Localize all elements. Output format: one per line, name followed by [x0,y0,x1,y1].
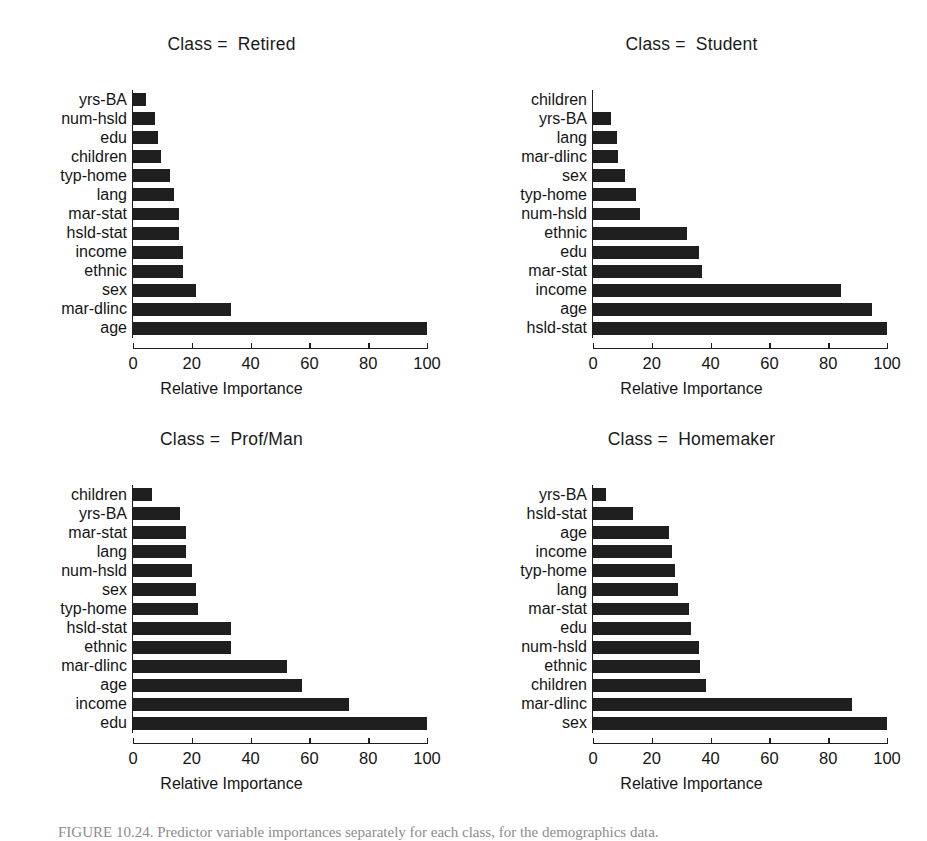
x-axis-tick [887,738,888,744]
bar-row: num-hsld [593,641,887,654]
panel-student: Class = Student childrenyrs-BAlangmar-dl… [460,20,923,420]
bar-rows: yrs-BAhsld-statageincometyp-homelangmar-… [593,485,887,733]
bar [133,545,186,558]
bar-row: num-hsld [133,564,427,577]
bar [593,303,872,316]
category-label: hsld-stat [527,319,587,337]
bar-row: edu [133,717,427,730]
x-axis-tick-label: 20 [643,354,661,373]
x-axis-tick-label: 100 [873,749,901,768]
category-label: sex [562,167,587,185]
category-label: children [531,676,587,694]
x-axis-tick-label: 0 [588,749,597,768]
x-axis-tick-label: 80 [359,354,377,373]
category-label: mar-dlinc [521,148,587,166]
bar-row: children [593,93,887,106]
x-axis-tick-label: 100 [413,749,441,768]
x-axis: 020406080100 [593,743,887,744]
x-axis-tick [828,738,829,744]
category-label: mar-stat [528,600,587,618]
x-axis-tick [427,738,428,744]
x-axis-tick [769,343,770,349]
category-label: edu [560,243,587,261]
plot-area: childrenyrs-BAlangmar-dlincsextyp-homenu… [593,90,887,338]
bar-row: ethnic [133,265,427,278]
category-label: income [535,281,587,299]
bar-row: ethnic [593,227,887,240]
bar-row: children [133,150,427,163]
x-axis-tick [251,343,252,349]
category-label: yrs-BA [539,486,587,504]
category-label: hsld-stat [67,224,127,242]
bar-row: children [593,679,887,692]
panel-title: Class = Retired [0,34,463,55]
bar-row: mar-stat [133,208,427,221]
bar-row: sex [133,583,427,596]
x-axis-tick [192,738,193,744]
category-label: edu [100,714,127,732]
bar-row: hsld-stat [593,507,887,520]
x-axis-tick [133,738,134,744]
bar-row: lang [593,131,887,144]
bar [133,717,427,730]
category-label: lang [557,129,587,147]
bar-row: income [593,545,887,558]
category-label: num-hsld [61,110,127,128]
bar [133,603,198,616]
x-axis-label: Relative Importance [460,775,923,793]
category-label: age [100,319,127,337]
bar-row: mar-dlinc [133,303,427,316]
bar [133,698,349,711]
x-axis-tick [652,343,653,349]
x-axis-tick-label: 20 [643,749,661,768]
category-label: edu [100,129,127,147]
bar [593,188,636,201]
bar [133,265,183,278]
x-axis-label: Relative Importance [460,380,923,398]
bar [133,660,287,673]
category-label: lang [97,186,127,204]
x-axis-tick [368,343,369,349]
category-label: children [71,148,127,166]
bar [593,322,887,335]
bar-row: yrs-BA [593,112,887,125]
bar-row: yrs-BA [133,507,427,520]
category-label: mar-dlinc [521,695,587,713]
category-label: income [75,243,127,261]
bar-row: hsld-stat [593,322,887,335]
bar [593,717,887,730]
bar [133,488,152,501]
x-axis-tick-label: 40 [241,354,259,373]
x-axis-tick-label: 100 [873,354,901,373]
plot-area: childrenyrs-BAmar-statlangnum-hsldsextyp… [133,485,427,733]
bar [133,150,161,163]
x-axis-tick [309,343,310,349]
x-axis-tick [192,343,193,349]
category-label: sex [562,714,587,732]
category-label: typ-home [60,600,127,618]
x-axis-tick-label: 20 [183,354,201,373]
bar [133,227,179,240]
bar-row: mar-stat [593,265,887,278]
bar-row: lang [133,545,427,558]
bar-row: typ-home [133,603,427,616]
bar [133,526,186,539]
bar-row: hsld-stat [133,227,427,240]
x-axis-tick [309,738,310,744]
x-axis-tick-label: 60 [300,749,318,768]
bar-row: income [593,284,887,297]
category-label: yrs-BA [79,505,127,523]
x-axis: 020406080100 [133,348,427,349]
bar-row: age [593,303,887,316]
x-axis-tick-label: 40 [701,354,719,373]
x-axis-line [593,348,887,349]
bar-row: age [593,526,887,539]
bar-rows: childrenyrs-BAmar-statlangnum-hsldsextyp… [133,485,427,733]
bar [593,583,678,596]
x-axis-tick [652,738,653,744]
bar [133,208,179,221]
category-label: num-hsld [521,205,587,223]
x-axis-label: Relative Importance [0,775,463,793]
x-axis-tick [133,343,134,349]
panel-prof-man: Class = Prof/Man childrenyrs-BAmar-statl… [0,415,463,815]
